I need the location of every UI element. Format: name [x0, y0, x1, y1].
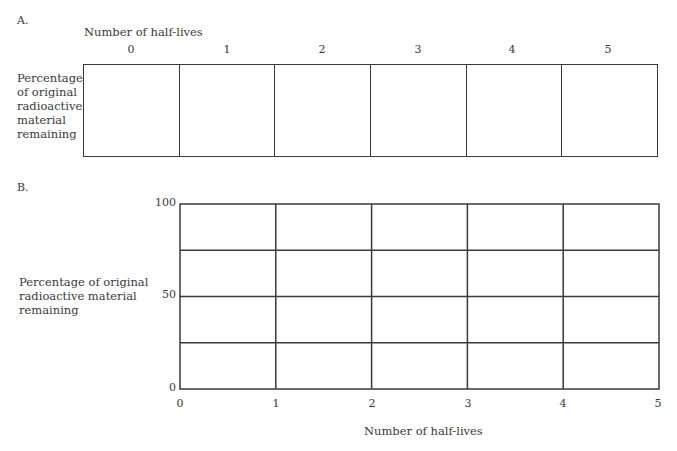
- part-a-label: A.: [17, 14, 28, 27]
- part-a-row-label-line: Percentage: [17, 71, 83, 85]
- x-tick-3: 3: [458, 397, 478, 410]
- part-a-x-axis-title: Number of half-lives: [84, 25, 203, 39]
- part-a-cell-0[interactable]: [84, 65, 180, 156]
- part-a-row-label-line: radioactive: [17, 99, 83, 113]
- y-tick-100: 100: [152, 196, 176, 209]
- part-a-cell-1[interactable]: [180, 65, 276, 156]
- x-tick-5: 5: [648, 397, 668, 410]
- part-a-col-header-3: 3: [408, 43, 428, 56]
- part-a-col-header-4: 4: [502, 43, 522, 56]
- part-b-label: B.: [17, 181, 29, 194]
- x-tick-0: 0: [170, 397, 190, 410]
- part-b-y-axis-title-line: Percentage of original: [19, 275, 149, 289]
- x-tick-2: 2: [362, 397, 382, 410]
- y-tick-0: 0: [152, 381, 176, 394]
- part-a-col-header-2: 2: [312, 43, 332, 56]
- part-a-row-label-line: of original: [17, 85, 83, 99]
- part-b-y-axis-title-line: radioactive material: [19, 289, 149, 303]
- part-b-x-axis-title: Number of half-lives: [364, 424, 483, 438]
- part-a-row-label-line: remaining: [17, 127, 83, 141]
- part-a-col-header-1: 1: [217, 43, 237, 56]
- part-b-y-axis-title: Percentage of original radioactive mater…: [19, 275, 149, 317]
- part-a-col-header-0: 0: [121, 43, 141, 56]
- y-tick-50: 50: [152, 288, 176, 301]
- part-a-cell-5[interactable]: [562, 65, 657, 156]
- part-a-row-label-line: material: [17, 113, 83, 127]
- part-a-cell-2[interactable]: [275, 65, 371, 156]
- part-a-col-header-5: 5: [598, 43, 618, 56]
- part-a-cell-3[interactable]: [371, 65, 467, 156]
- x-tick-1: 1: [266, 397, 286, 410]
- part-a-cell-4[interactable]: [467, 65, 563, 156]
- x-tick-4: 4: [553, 397, 573, 410]
- part-a-row-label: Percentage of original radioactive mater…: [17, 71, 83, 141]
- part-a-data-table: [83, 64, 658, 157]
- part-b-y-axis-title-line: remaining: [19, 303, 149, 317]
- part-b-graph-grid[interactable]: [178, 202, 662, 392]
